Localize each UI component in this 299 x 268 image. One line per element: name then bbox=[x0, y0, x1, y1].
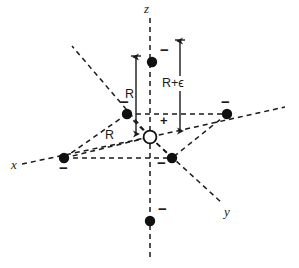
charge-sign-ligand-lower-right: − bbox=[157, 155, 166, 170]
lattice-diagram-svg bbox=[0, 0, 299, 268]
plane-edge-ul-left bbox=[64, 114, 127, 158]
charge-sign-ligand-bottom-z: − bbox=[158, 201, 167, 216]
axis-label-x: x bbox=[11, 158, 17, 171]
ligand-right bbox=[222, 109, 232, 119]
y-axis-line-negative bbox=[72, 46, 150, 137]
charge-sign-ligand-top-z: − bbox=[160, 42, 169, 57]
central-cation bbox=[144, 131, 157, 144]
charge-sign-ligand-upper-left: − bbox=[120, 94, 129, 109]
dimension-label-R-diagonal: R bbox=[105, 129, 114, 142]
charge-sign-ligand-far-left-x: − bbox=[59, 160, 68, 175]
axis-label-z: z bbox=[144, 2, 149, 15]
dimension-label-R-plus-epsilon: R+ϵ bbox=[160, 76, 186, 91]
ligand-bottom-z bbox=[145, 216, 155, 226]
axis-label-y: y bbox=[224, 205, 230, 218]
ligand-upper-left bbox=[122, 109, 132, 119]
ligand-lower-right bbox=[167, 153, 177, 163]
x-axis-line bbox=[22, 137, 150, 164]
charge-sign-central-cation: + bbox=[160, 114, 168, 127]
charge-sign-ligand-right: − bbox=[221, 94, 230, 109]
ligand-top-z bbox=[147, 57, 157, 67]
figure-canvas: z x y R R R+ϵ − − − − − − + bbox=[0, 0, 299, 268]
